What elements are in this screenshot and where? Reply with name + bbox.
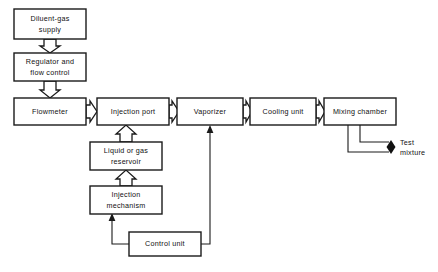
box-vaporizer: Vaporizer bbox=[177, 98, 243, 125]
box-regulator-and-flow-control: Regulator and flow control bbox=[14, 53, 86, 81]
box-liquid-or-gas-reservoir: Liquid or gas reservoir bbox=[90, 142, 162, 170]
label-test-mixture: Test mixture bbox=[400, 138, 425, 157]
test-mixture-label-line2: mixture bbox=[400, 148, 425, 157]
box-label-cooling-unit: Cooling unit bbox=[263, 107, 304, 116]
line-mixing-chamber-to-test-mixture bbox=[348, 125, 389, 152]
box-cooling-unit: Cooling unit bbox=[250, 98, 316, 125]
box-label-injection-mechanism-line1: Injection bbox=[111, 190, 140, 199]
box-label-vaporizer: Vaporizer bbox=[194, 107, 227, 116]
box-label-regulator-line1: Regulator and bbox=[26, 57, 74, 66]
box-label-mixing-chamber: Mixing chamber bbox=[333, 107, 388, 116]
arrow-supply-to-regulator bbox=[40, 39, 60, 53]
box-flowmeter: Flowmeter bbox=[14, 98, 86, 125]
box-mixing-chamber: Mixing chamber bbox=[324, 98, 396, 125]
arrow-regulator-to-flowmeter bbox=[40, 81, 60, 98]
box-label-reservoir-line1: Liquid or gas bbox=[104, 146, 149, 155]
test-mixture-label-line1: Test bbox=[400, 138, 414, 147]
box-control-unit: Control unit bbox=[129, 232, 201, 256]
box-label-reservoir-line2: reservoir bbox=[111, 157, 142, 166]
flow-diagram-figure: Diluent-gas supply Regulator and flow co… bbox=[0, 0, 438, 272]
box-injection-mechanism: Injection mechanism bbox=[90, 186, 162, 214]
box-label-injection-port: Injection port bbox=[111, 107, 156, 116]
arrow-reservoir-to-injection-port bbox=[116, 125, 136, 142]
box-label-injection-mechanism-line2: mechanism bbox=[107, 201, 146, 210]
flow-diagram-canvas: Diluent-gas supply Regulator and flow co… bbox=[0, 0, 438, 272]
arrow-flowmeter-to-injection-port bbox=[86, 101, 97, 122]
box-label-flowmeter: Flowmeter bbox=[32, 107, 68, 116]
box-label-regulator-line2: flow control bbox=[30, 68, 70, 77]
line-control-unit-to-injection-mechanism bbox=[109, 213, 129, 244]
box-label-control-unit: Control unit bbox=[145, 239, 185, 248]
box-label-diluent-gas-supply-line1: Diluent-gas bbox=[30, 14, 69, 23]
box-diluent-gas-supply: Diluent-gas supply bbox=[14, 9, 86, 39]
line-control-unit-to-vaporizer bbox=[201, 125, 213, 244]
arrow-injection-mechanism-to-reservoir bbox=[116, 170, 136, 186]
box-injection-port: Injection port bbox=[97, 98, 169, 125]
box-label-diluent-gas-supply-line2: supply bbox=[39, 25, 61, 34]
